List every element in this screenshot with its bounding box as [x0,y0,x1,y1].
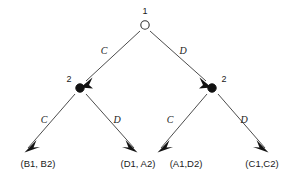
game-tree-diagram: 1 2 2 C D C D C D (B1, B2) (D1, A2) (A1,… [0,0,297,174]
edge-label-right-defect: D [239,114,248,125]
edge-root-to-left-node [86,31,140,81]
edge-label-left-defect: D [112,114,121,125]
node-right-player2[interactable] [208,84,216,92]
edge-label-root-cooperate: C [101,45,108,56]
edge-left-node-to-outcome-d [86,94,134,148]
outcome-label-c1c2: (C1,C2) [245,158,278,169]
arrowhead-outcome-a1d2 [158,140,174,153]
edge-left-node-to-outcome-b [28,94,75,148]
node-label-right-player2: 2 [221,74,226,84]
outcome-label-d1a2: (D1, A2) [121,158,156,169]
arrowhead-outcome-b1b2 [25,140,41,153]
node-root-player1[interactable] [141,21,149,29]
edge-label-right-cooperate: C [167,114,174,125]
node-label-left-player2: 2 [66,74,71,84]
edge-root-to-right-node [150,31,206,81]
edge-label-left-cooperate: C [41,114,48,125]
outcome-label-b1b2: (B1, B2) [21,158,56,169]
arrowhead-outcome-c1c2 [253,140,269,153]
arrowhead-outcome-d1a2 [122,140,138,153]
node-label-root: 1 [142,6,147,16]
game-tree-canvas: 1 2 2 C D C D C D (B1, B2) (D1, A2) (A1,… [0,0,297,174]
node-left-player2[interactable] [76,84,84,92]
edge-label-root-defect: D [178,45,187,56]
outcome-label-a1d2: (A1,D2) [170,158,203,169]
